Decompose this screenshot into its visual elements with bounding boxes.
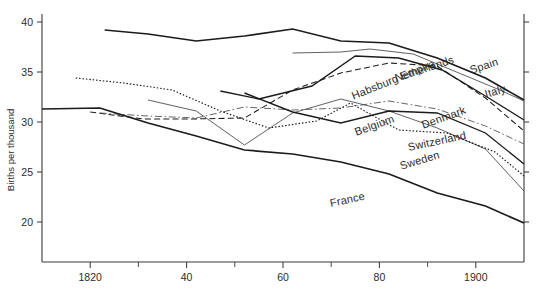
- series-line-sweden: [76, 78, 524, 176]
- y-tick-label: 30: [21, 116, 33, 128]
- y-tick-label: 35: [21, 66, 33, 78]
- x-tick-label: 80: [374, 271, 386, 283]
- chart-plot-area: 403530252018204060801900Births per thous…: [0, 0, 541, 304]
- y-tick-label: 20: [21, 216, 33, 228]
- y-axis-title: Births per thousand: [5, 109, 16, 191]
- y-tick-label: 25: [21, 166, 33, 178]
- series-line-france: [42, 108, 524, 223]
- y-tick-label: 40: [21, 16, 33, 28]
- x-tick-label: 40: [181, 271, 193, 283]
- x-tick-label: 60: [277, 271, 289, 283]
- x-tick-label: 1900: [464, 271, 488, 283]
- series-line-belgium: [148, 99, 524, 191]
- chart-figure: 403530252018204060801900Births per thous…: [0, 0, 541, 304]
- x-tick-label: 1820: [79, 271, 103, 283]
